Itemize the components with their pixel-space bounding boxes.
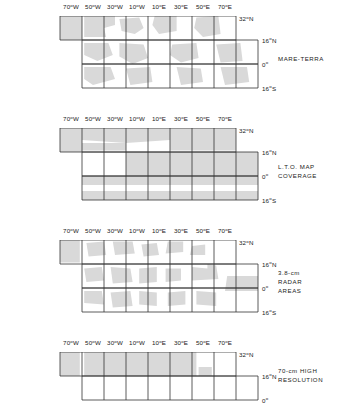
lat-tick-label: 32oN	[239, 239, 254, 246]
lon-tick-label: 30oE	[174, 227, 188, 234]
longitude-axis-mare-terra: 70oW50oW30oW10oW10oE30oE50oE70oE	[60, 3, 236, 16]
lon-tick-label: 30oE	[174, 115, 188, 122]
lat-tick-label: 32oN	[239, 127, 254, 134]
lon-tick-label: 70oW	[63, 227, 79, 234]
shaded-regions	[60, 240, 258, 308]
lon-tick-label: 70oW	[63, 339, 79, 346]
panel-caption-mare-terra: MARE-TERRA	[278, 54, 324, 63]
longitude-axis-high-resolution: 70oW50oW30oW10oW10oE30oE50oE70oE	[60, 339, 236, 352]
lon-tick-label: 10oW	[129, 339, 145, 346]
lat-tick-label: 0o	[262, 61, 268, 68]
lon-tick-label: 70oE	[218, 3, 232, 10]
lon-tick-label: 10oW	[129, 227, 145, 234]
lat-tick-label: 16oN	[262, 261, 277, 268]
lat-tick-label: 16oS	[262, 197, 276, 204]
lon-tick-label: 10oE	[152, 115, 166, 122]
lat-tick-label: 0o	[262, 285, 268, 292]
lat-tick-label: 16oS	[262, 85, 276, 92]
lon-tick-label: 70oE	[218, 339, 232, 346]
lat-tick-label: 0o	[262, 173, 268, 180]
lat-tick-label: 16oN	[262, 149, 277, 156]
lon-tick-label: 10oE	[152, 3, 166, 10]
lat-tick-label: 32oN	[239, 15, 254, 22]
longitude-axis-radar-areas: 70oW50oW30oW10oW10oE30oE50oE70oE	[60, 227, 236, 240]
lon-tick-label: 30oW	[107, 227, 123, 234]
lon-tick-label: 70oE	[218, 115, 232, 122]
lon-tick-label: 70oE	[218, 227, 232, 234]
lon-tick-label: 30oW	[107, 3, 123, 10]
lon-tick-label: 50oW	[85, 227, 101, 234]
longitude-axis-lto-map-coverage: 70oW50oW30oW10oW10oE30oE50oE70oE	[60, 115, 236, 128]
lon-tick-label: 50oW	[85, 339, 101, 346]
lon-tick-label: 50oE	[196, 227, 210, 234]
lon-tick-label: 10oE	[152, 339, 166, 346]
lat-tick-label: 32oN	[239, 351, 254, 358]
lon-tick-label: 10oW	[129, 115, 145, 122]
shaded-regions	[60, 352, 212, 376]
lon-tick-label: 50oW	[85, 3, 101, 10]
lon-tick-label: 50oE	[196, 3, 210, 10]
lon-tick-label: 10oE	[152, 227, 166, 234]
lat-tick-label: 0o	[262, 397, 268, 404]
lat-tick-label: 16oS	[262, 309, 276, 316]
panel-caption-lto-map-coverage: L.T.O. MAP COVERAGE	[278, 162, 317, 180]
lat-tick-label: 16oN	[262, 37, 277, 44]
lon-tick-label: 30oE	[174, 3, 188, 10]
lat-tick-label: 16oN	[262, 373, 277, 380]
lon-tick-label: 70oW	[63, 3, 79, 10]
shaded-regions	[60, 16, 249, 85]
lon-tick-label: 50oE	[196, 339, 210, 346]
panel-caption-radar-areas: 3.8-cm RADAR AREAS	[278, 268, 302, 295]
lon-tick-label: 10oW	[129, 3, 145, 10]
lon-tick-label: 50oW	[85, 115, 101, 122]
lon-tick-label: 50oE	[196, 115, 210, 122]
lon-tick-label: 30oE	[174, 339, 188, 346]
shaded-regions	[60, 128, 258, 200]
panel-caption-high-resolution: 70-cm HIGH RESOLUTION	[278, 366, 323, 384]
lon-tick-label: 30oW	[107, 115, 123, 122]
lon-tick-label: 70oW	[63, 115, 79, 122]
lon-tick-label: 30oW	[107, 339, 123, 346]
